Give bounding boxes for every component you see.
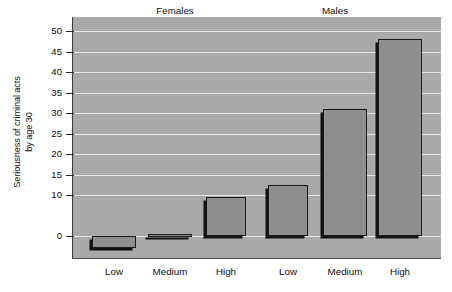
y-tick-mark bbox=[66, 154, 74, 155]
y-tick-mark bbox=[66, 175, 74, 176]
bar-males-low bbox=[268, 185, 308, 236]
y-tick-label: 45 bbox=[36, 47, 62, 57]
gridline bbox=[73, 31, 441, 32]
y-tick-label: 25 bbox=[36, 129, 62, 139]
bar-males-medium bbox=[323, 109, 367, 236]
y-tick-label: 30 bbox=[36, 108, 62, 118]
y-tick-mark bbox=[66, 72, 74, 73]
x-tick-label: Medium bbox=[314, 266, 376, 277]
y-tick-mark bbox=[66, 31, 74, 32]
y-tick-label: 40 bbox=[36, 67, 62, 77]
group-label-males: Males bbox=[295, 5, 375, 16]
x-tick-label: High bbox=[369, 266, 431, 277]
y-tick-label: 0 bbox=[36, 231, 62, 241]
bar-chart: Seriousness of criminal acts by age 30 F… bbox=[0, 0, 452, 292]
y-tick-label: 20 bbox=[36, 149, 62, 159]
y-tick-mark bbox=[66, 195, 74, 196]
bar-males-high bbox=[378, 39, 422, 236]
y-axis-title-line-1: Seriousness of criminal acts bbox=[12, 32, 24, 232]
y-tick-mark bbox=[66, 134, 74, 135]
x-tick-label: High bbox=[195, 266, 257, 277]
y-tick-mark bbox=[66, 236, 74, 237]
y-tick-label: 10 bbox=[36, 190, 62, 200]
group-label-females: Females bbox=[135, 5, 215, 16]
y-tick-label: 50 bbox=[36, 26, 62, 36]
x-tick-label: Medium bbox=[139, 266, 201, 277]
x-axis-line bbox=[72, 258, 441, 259]
y-tick-label: 35 bbox=[36, 88, 62, 98]
y-tick-mark bbox=[66, 93, 74, 94]
y-axis-line bbox=[72, 17, 73, 259]
bar-females-high bbox=[206, 197, 246, 236]
y-axis-title-line-2: by age 30 bbox=[24, 32, 36, 232]
x-tick-label: Low bbox=[83, 266, 145, 277]
x-tick-label: Low bbox=[257, 266, 319, 277]
y-tick-label: 15 bbox=[36, 170, 62, 180]
y-tick-mark bbox=[66, 113, 74, 114]
y-tick-mark bbox=[66, 52, 74, 53]
bar-females-low bbox=[92, 236, 136, 248]
bar-females-medium bbox=[148, 234, 192, 237]
